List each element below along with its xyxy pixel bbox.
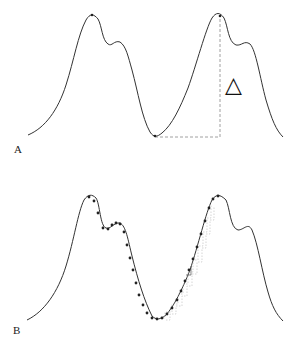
panel-label-a: A — [14, 143, 22, 155]
delta-bracket — [155, 16, 220, 137]
sample-points — [88, 195, 220, 321]
delta-symbol: △ — [225, 74, 242, 96]
trough-marker — [154, 135, 157, 138]
curve-a — [28, 14, 283, 138]
panel-label-b: B — [13, 324, 20, 336]
diagram-canvas — [0, 0, 297, 340]
staircase — [160, 205, 214, 320]
peak-marker-2 — [219, 15, 222, 18]
curve-b — [27, 195, 283, 321]
peak-marker-1 — [91, 14, 94, 17]
